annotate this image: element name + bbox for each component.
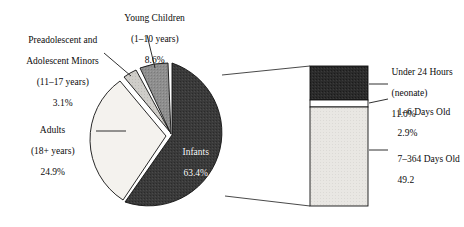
breakout-bar [310,66,368,206]
label-young-children-line1: Young Children [124,13,185,23]
bar-segment-7-364-days[interactable] [310,107,368,206]
label-under-24-hours-line1: Under 24 Hours [392,67,453,77]
label-1-6-days-line1: 1–6 Days Old [398,107,451,117]
label-preadolescent-value: 3.1% [53,98,73,108]
label-adults-line1: Adults [40,125,65,135]
label-young-children: Young Children (1–10 years) 8.6% [102,2,198,76]
label-preadolescent-line3: (11–17 years) [37,77,89,87]
label-infants-value: 63.4% [183,168,208,178]
label-infants: Infants 63.4% [160,136,222,189]
label-7-364-days-line1: 7–364 Days Old [398,154,460,164]
projection-lines [222,66,310,206]
label-adults: Adults (18+ years) 24.9% [2,114,94,188]
label-preadolescent-minors: Preadolescent and Adolescent Minors (11–… [2,24,114,119]
label-young-children-value: 8.6% [145,55,165,65]
label-1-6-days-value: 2.9% [398,128,418,138]
label-preadolescent-line2: Adolescent Minors [26,56,99,66]
bar-segment-1-6-days[interactable] [310,100,368,107]
label-1-6-days-old: 1–6 Days Old 2.9% [388,96,464,149]
bar-segment-under-24-hours[interactable] [310,66,368,100]
label-7-364-days-old: 7–364 Days Old 49.2 [388,143,464,196]
label-young-children-line2: (1–10 years) [131,34,179,44]
pie-chart-figure: Preadolescent and Adolescent Minors (11–… [0,0,464,227]
label-adults-line2: (18+ years) [31,146,75,156]
label-7-364-days-value: 49.2 [398,175,415,185]
label-adults-value: 24.9% [40,167,65,177]
label-preadolescent-line1: Preadolescent and [28,35,97,45]
label-infants-line1: Infants [183,147,209,157]
